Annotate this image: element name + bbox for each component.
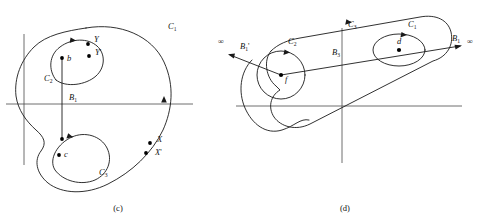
label-infinity-left: ∞ [218,37,224,46]
point-x-prime-dot [144,151,148,155]
label-c1-panel-d: C1 [408,19,417,30]
point-x-dot [148,141,152,145]
point-y-prime-dot [87,54,91,58]
label-b1-panel-c: B1 [69,92,77,103]
point-y-dot [86,42,90,46]
outer-boundary-curve-panel-d [266,16,451,127]
label-point-b: b [67,53,71,63]
label-c2-panel-d: C2 [288,36,297,47]
arrowhead-c1-panel-c [161,96,167,102]
point-f-dot [279,73,283,77]
point-c-dot [57,153,61,157]
label-point-f: f [285,74,289,84]
arrowhead-c2-panel-c [70,37,76,43]
label-b1-prime-panel-d: B1' [240,41,250,52]
point-b-dot [60,56,64,60]
label-c2-panel-c: C2 [44,73,53,84]
label-y-panel-c: Y [94,34,100,44]
point-b1-lower-dot [60,137,64,141]
label-infinity-right: ∞ [467,37,473,46]
label-b3-panel-d: B3 [332,47,340,58]
arrowhead-c2-panel-d [283,49,290,55]
label-point-c: c [64,149,68,159]
arrowhead-b1-prime-panel-d [228,53,235,58]
label-x-panel-c: X [156,134,163,144]
arrowhead-b1-panel-d [455,45,463,50]
arrowhead-c1-panel-d [400,32,407,38]
figure-root: C1 C2 C3 B1 b c Y Y' X X' [0,0,479,219]
outer-curve-c1-panel-c [16,27,171,192]
lower-boundary-curve-panel-d [241,60,309,131]
arrowhead-c3-panel-c [66,133,73,138]
panel-c-group: C1 C2 C3 B1 b c Y Y' X X' [6,21,193,192]
label-c1-panel-c: C1 [168,21,177,32]
caption-panel-d: (d) [340,203,350,213]
label-c3-panel-d: C3 [348,19,357,30]
label-c3-panel-c: C3 [99,167,108,178]
mathematical-figure-svg: C1 C2 C3 B1 b c Y Y' X X' [0,0,479,219]
point-d-dot [397,48,401,52]
caption-panel-c: (c) [113,203,123,213]
label-y-prime-panel-c: Y' [95,47,102,57]
panel-d-group: C1 C2 C3 B1 B1' B3 d f ∞ ∞ [218,16,473,163]
label-x-prime-panel-c: X' [154,147,162,157]
label-b1-panel-d: B1 [452,33,460,44]
label-point-d: d [397,36,402,46]
line-b1-prime-panel-d [230,55,281,75]
